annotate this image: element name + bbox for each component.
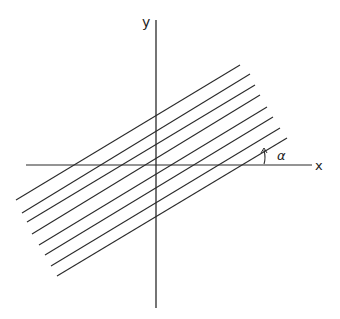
parallel-line xyxy=(27,85,255,222)
parallel-line xyxy=(45,117,273,255)
parallel-lines xyxy=(16,65,287,276)
parallel-line xyxy=(16,65,240,200)
parallel-line xyxy=(22,74,250,213)
y-axis-label: y xyxy=(142,14,150,30)
angle-label: α xyxy=(277,148,286,163)
parallel-line xyxy=(39,107,267,245)
x-axis-label: x xyxy=(315,158,323,173)
parallel-line xyxy=(51,128,280,266)
diagram: x y α xyxy=(0,0,340,319)
parallel-line xyxy=(57,138,287,276)
